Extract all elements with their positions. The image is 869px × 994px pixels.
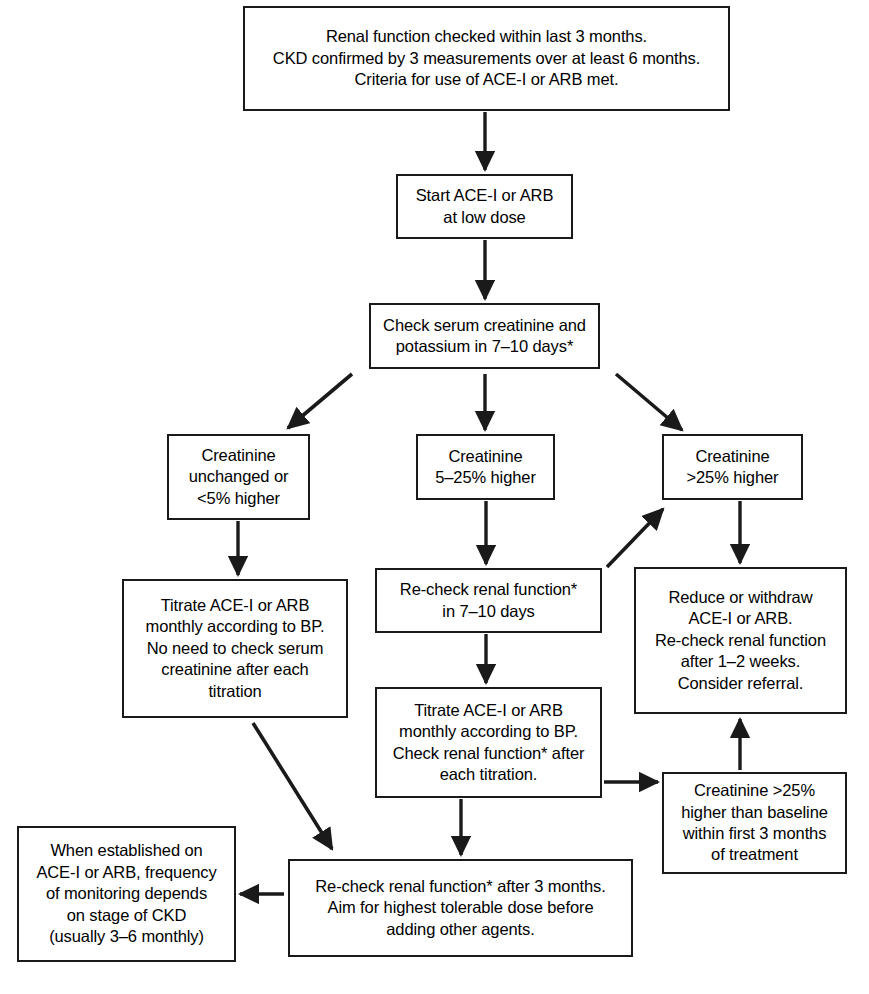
node-start-ace-i-or-arb-label: Start ACE-I or ARB at low dose (416, 185, 554, 228)
flowchart-diagram: Renal function checked within last 3 mon… (0, 0, 869, 994)
node-creatinine-over-25-higher: Creatinine >25% higher (662, 434, 803, 500)
edge-check-labs-to-creat-unchanged (288, 374, 352, 428)
node-when-established: When established on ACE-I or ARB, freque… (17, 826, 236, 962)
node-entry-criteria: Renal function checked within last 3 mon… (243, 6, 730, 111)
node-creatinine-over-25-baseline-label: Creatinine >25% higher than baseline wit… (681, 780, 828, 866)
node-check-serum-creatinine-label: Check serum creatinine and potassium in … (383, 315, 586, 358)
node-reduce-or-withdraw-label: Reduce or withdraw ACE-I or ARB. Re-chec… (655, 587, 826, 694)
node-entry-criteria-label: Renal function checked within last 3 mon… (273, 26, 700, 90)
node-titrate-no-need-check-label: Titrate ACE-I or ARB monthly according t… (146, 595, 325, 702)
node-creatinine-5-25-higher-label: Creatinine 5–25% higher (435, 446, 536, 489)
edge-check-labs-to-creat-gt25 (616, 374, 682, 430)
node-recheck-renal-3-months: Re-check renal function* after 3 months.… (288, 859, 633, 957)
node-titrate-check-each-titration: Titrate ACE-I or ARB monthly according t… (375, 687, 602, 798)
node-check-serum-creatinine: Check serum creatinine and potassium in … (369, 303, 600, 369)
node-reduce-or-withdraw: Reduce or withdraw ACE-I or ARB. Re-chec… (634, 567, 847, 714)
node-creatinine-over-25-baseline: Creatinine >25% higher than baseline wit… (662, 772, 847, 874)
node-recheck-renal-7-10-days-label: Re-check renal function* in 7–10 days (400, 579, 577, 622)
node-creatinine-5-25-higher: Creatinine 5–25% higher (416, 434, 555, 500)
node-recheck-renal-7-10-days: Re-check renal function* in 7–10 days (375, 568, 602, 633)
node-recheck-renal-3-months-label: Re-check renal function* after 3 months.… (315, 876, 605, 940)
node-titrate-no-need-check: Titrate ACE-I or ARB monthly according t… (122, 579, 348, 718)
edge-recheck-7-10-to-creat-gt25 (607, 509, 663, 567)
node-creatinine-unchanged: Creatinine unchanged or <5% higher (167, 434, 310, 520)
node-creatinine-unchanged-label: Creatinine unchanged or <5% higher (189, 445, 289, 509)
node-when-established-label: When established on ACE-I or ARB, freque… (36, 840, 216, 947)
edge-titrate-left-to-recheck-3-months (253, 723, 332, 849)
node-creatinine-over-25-higher-label: Creatinine >25% higher (686, 446, 778, 489)
node-start-ace-i-or-arb: Start ACE-I or ARB at low dose (396, 174, 573, 239)
node-titrate-check-each-titration-label: Titrate ACE-I or ARB monthly according t… (393, 700, 585, 786)
